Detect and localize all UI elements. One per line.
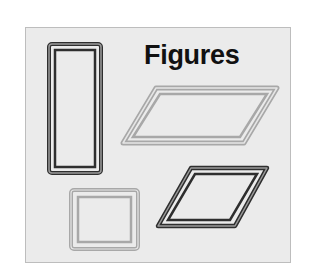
- small-parallelogram-shape: [158, 168, 267, 226]
- small-rectangle-shape: [71, 190, 138, 249]
- wide-parallelogram-shape: [123, 88, 277, 143]
- tall-rectangle-shape: [49, 44, 101, 173]
- diagram-title: Figures: [144, 40, 239, 70]
